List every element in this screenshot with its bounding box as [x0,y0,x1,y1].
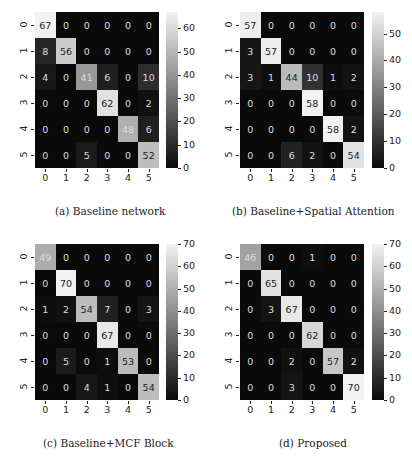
heatmap-cell: 0 [76,244,97,270]
y-tick-label: 4 [223,124,234,134]
x-tick-label: 0 [244,172,256,183]
y-tick-mark [236,309,239,310]
heatmap-cell: 0 [35,142,56,168]
y-tick-label: 3 [18,98,29,108]
y-tick-label: 0 [18,20,29,30]
heatmap-cell: 58 [323,116,344,142]
heatmap-cell: 56 [56,38,77,64]
heatmap-cell: 62 [97,90,118,116]
heatmap-cell: 0 [343,296,364,322]
colorbar-tick-label: 20 [389,349,401,360]
heatmap-cell: 0 [240,116,261,142]
y-tick-label: 0 [223,20,234,30]
heatmap-cell: 44 [281,64,302,90]
heatmap-cell: 0 [76,12,97,38]
y-tick-label: 1 [18,46,29,56]
colorbar-tick-label: 50 [183,283,195,294]
heatmap-cell: 0 [97,244,118,270]
y-tick-mark [236,257,239,258]
y-tick-label: 5 [18,150,29,160]
heatmap-cell: 0 [118,142,139,168]
heatmap-grid: 6700000856000040416010000620200004860050… [35,12,159,168]
heatmap-cell: 0 [281,270,302,296]
heatmap-cell: 67 [281,296,302,322]
y-tick-mark [236,51,239,52]
x-tick-label: 5 [348,404,360,415]
y-tick-label: 2 [18,304,29,314]
y-tick-label: 1 [18,278,29,288]
heatmap-cell: 2 [56,296,77,322]
colorbar-tick-label: 30 [389,81,401,92]
heatmap-cell: 65 [261,270,282,296]
colorbar-tick-label: 60 [389,260,401,271]
heatmap-cell: 0 [302,38,323,64]
heatmap-cell: 0 [323,296,344,322]
colorbar-tick [178,145,181,146]
colorbar-tick-label: 50 [389,283,401,294]
heatmap-cell: 0 [240,374,261,400]
colorbar-tick [384,34,387,35]
colorbar-tick [384,114,387,115]
heatmap-cell: 1 [302,244,323,270]
heatmap-cell: 54 [343,142,364,168]
colorbar-tick-label: 30 [389,327,401,338]
x-tick-label: 4 [122,404,134,415]
heatmap-cell: 46 [240,244,261,270]
y-tick-label: 4 [18,124,29,134]
x-tick-label: 3 [306,404,318,415]
y-tick-label: 1 [223,278,234,288]
colorbar-tick-label: 40 [389,54,401,65]
heatmap-cell: 0 [343,90,364,116]
heatmap-cell: 0 [261,12,282,38]
y-tick-mark [236,77,239,78]
heatmap-cell: 0 [323,270,344,296]
heatmap-cell: 0 [138,38,159,64]
x-tick-label: 4 [327,404,339,415]
colorbar [372,244,384,400]
heatmap-cell: 7 [97,296,118,322]
heatmap-cell: 0 [261,348,282,374]
heatmap-cell: 67 [97,322,118,348]
heatmap-cell: 0 [118,296,139,322]
x-tick-label: 1 [265,172,277,183]
x-tick-label: 5 [143,404,155,415]
heatmap-cell: 0 [35,116,56,142]
heatmap-cell: 0 [97,270,118,296]
heatmap-cell: 0 [76,270,97,296]
heatmap-grid: 5700000357000031441012000580000005820062… [240,12,364,168]
x-tick-label: 2 [286,404,298,415]
heatmap-cell: 2 [281,348,302,374]
heatmap-grid: 4900000070000012547030006700050153000410… [35,244,159,400]
colorbar-tick [384,266,387,267]
heatmap-cell: 54 [138,374,159,400]
y-tick-label: 5 [18,382,29,392]
colorbar-tick-label: 20 [183,349,195,360]
heatmap-cell: 1 [261,64,282,90]
y-tick-label: 2 [18,72,29,82]
heatmap-cell: 58 [302,90,323,116]
y-tick-mark [31,25,34,26]
colorbar-tick [178,378,181,379]
heatmap-cell: 0 [281,12,302,38]
heatmap-cell: 2 [343,348,364,374]
heatmap-cell: 0 [35,374,56,400]
heatmap-cell: 0 [240,322,261,348]
caption-b: (b) Baseline+Spatial Attention [232,205,395,217]
colorbar-tick-label: 10 [183,139,195,150]
heatmap-cell: 0 [76,38,97,64]
heatmap-cell: 0 [343,38,364,64]
y-tick-mark [31,51,34,52]
heatmap-cell: 0 [76,90,97,116]
y-tick-mark [31,129,34,130]
colorbar-tick-label: 10 [389,135,401,146]
heatmap-cell: 0 [240,90,261,116]
heatmap-cell: 41 [76,64,97,90]
x-tick-label: 2 [81,172,93,183]
heatmap-cell: 0 [323,38,344,64]
caption-c: (c) Baseline+MCF Block [43,437,174,449]
heatmap-cell: 49 [35,244,56,270]
heatmap-cell: 6 [281,142,302,168]
heatmap-cell: 0 [118,12,139,38]
heatmap-cell: 67 [35,12,56,38]
y-tick-mark [236,129,239,130]
